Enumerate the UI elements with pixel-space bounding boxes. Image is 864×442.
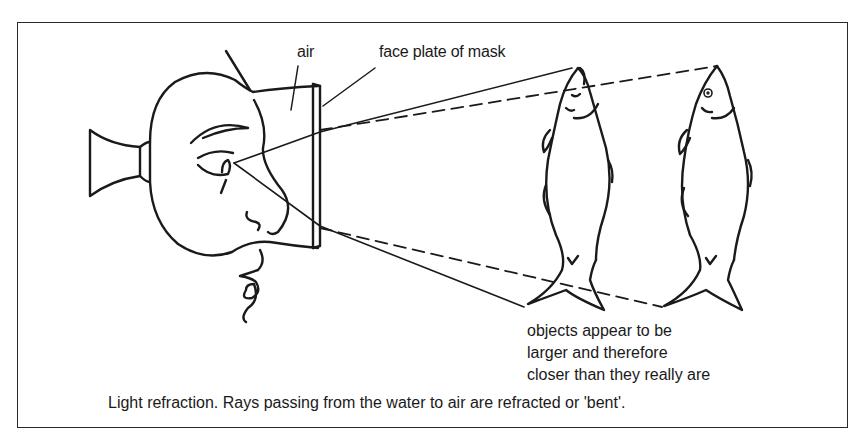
- faceplate-leader-line: [323, 68, 375, 106]
- note-line: larger and therefore: [527, 342, 710, 364]
- diver-head-icon: [90, 51, 320, 322]
- fish-actual-icon: [528, 68, 613, 310]
- apparent-size-note: objects appear to be larger and therefor…: [527, 320, 710, 386]
- label-air: air: [297, 41, 314, 63]
- note-line: closer than they really are: [527, 364, 710, 386]
- figure-caption: Light refraction. Rays passing from the …: [108, 392, 625, 414]
- apparent-rays: [320, 66, 717, 307]
- fish-apparent-icon: [664, 66, 752, 310]
- refraction-diagram: [0, 0, 864, 442]
- note-line: objects appear to be: [527, 320, 710, 342]
- label-face-plate: face plate of mask: [379, 41, 505, 63]
- actual-rays: [234, 68, 572, 307]
